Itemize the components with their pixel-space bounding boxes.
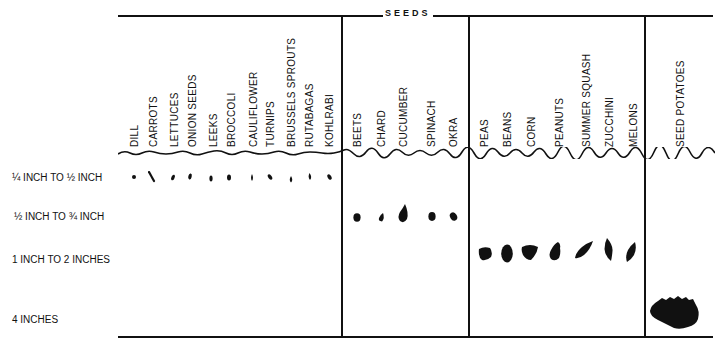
label-melons: MELONS xyxy=(629,103,639,147)
seed-icon-summer-squash xyxy=(574,240,594,260)
label-zucchini: ZUCCHINI xyxy=(605,97,615,147)
seed-icon-cauliflower xyxy=(249,173,255,182)
label-cauliflower: CAULIFLOWER xyxy=(249,71,259,147)
seed-icon-brussels-sprouts xyxy=(288,175,294,183)
label-rutabagas: RUTABAGAS xyxy=(305,83,315,147)
seed-icon-rutabagas xyxy=(307,172,313,181)
row-label-quarter-to-half-inch: ¼ INCH TO ½ INCH xyxy=(12,172,102,183)
seed-icon-chard xyxy=(377,212,386,223)
label-turnips: TURNIPS xyxy=(266,101,276,147)
label-beets: BEETS xyxy=(353,113,363,147)
label-carrots: CARROTS xyxy=(149,96,159,147)
label-spinach: SPINACH xyxy=(427,100,437,147)
label-seed-potatoes: SEED POTATOES xyxy=(676,60,686,147)
seed-icon-spinach xyxy=(427,211,437,222)
divider-line-1 xyxy=(341,16,343,337)
seed-icon-carrots xyxy=(148,171,156,183)
seed-icon-beets xyxy=(352,212,362,223)
divider-line-3 xyxy=(644,16,646,337)
label-peanuts: PEANUTS xyxy=(555,98,565,147)
label-lettuces: LETTUCES xyxy=(170,92,180,147)
label-kohlrabi: KOHLRABI xyxy=(325,94,335,147)
label-corn: CORN xyxy=(527,116,537,147)
seed-icon-kohlrabi xyxy=(326,173,333,181)
label-peas: PEAS xyxy=(480,119,490,147)
label-beans: BEANS xyxy=(503,112,513,147)
seed-icon-peas xyxy=(477,246,493,262)
seed-icon-zucchini xyxy=(603,237,614,262)
chart-title: SEEDS xyxy=(383,8,433,18)
seed-icon-peanuts xyxy=(548,241,562,262)
divider-line-2 xyxy=(468,16,470,337)
label-chard: CHARD xyxy=(377,110,387,147)
row-label-four-inches: 4 INCHES xyxy=(12,314,58,325)
label-broccoli: BROCCOLI xyxy=(227,92,237,147)
seed-icon-beans xyxy=(500,243,514,264)
soil-line xyxy=(118,147,715,159)
seed-icon-corn xyxy=(521,244,539,262)
bottom-border-line xyxy=(118,336,713,338)
seed-icon-broccoli xyxy=(226,173,232,182)
label-leeks: LEEKS xyxy=(209,113,219,147)
seed-icon-okra xyxy=(448,211,459,222)
seed-icon-turnips xyxy=(266,173,274,181)
seed-icon-leeks xyxy=(208,174,214,183)
seed-icon-onion-seeds xyxy=(187,172,193,181)
row-label-one-to-two-inches: 1 INCH TO 2 INCHES xyxy=(12,254,110,265)
label-brussels-sprouts: BRUSSELS SPROUTS xyxy=(287,38,297,147)
seed-icon-lettuces xyxy=(170,173,176,182)
seed-icon-melons xyxy=(625,241,637,263)
row-label-half-to-three-quarter-inch: ½ INCH TO ¾ INCH xyxy=(14,211,104,222)
label-dill: DILL xyxy=(130,125,140,147)
label-summer-squash: SUMMER SQUASH xyxy=(582,54,592,147)
label-cucumber: CUCUMBER xyxy=(399,87,409,147)
label-onion-seeds: ONION SEEDS xyxy=(188,74,198,147)
label-okra: OKRA xyxy=(449,117,459,147)
seed-potato-icon xyxy=(648,293,703,333)
seed-icon-dill xyxy=(131,174,137,180)
seed-icon-cucumber xyxy=(397,203,410,225)
